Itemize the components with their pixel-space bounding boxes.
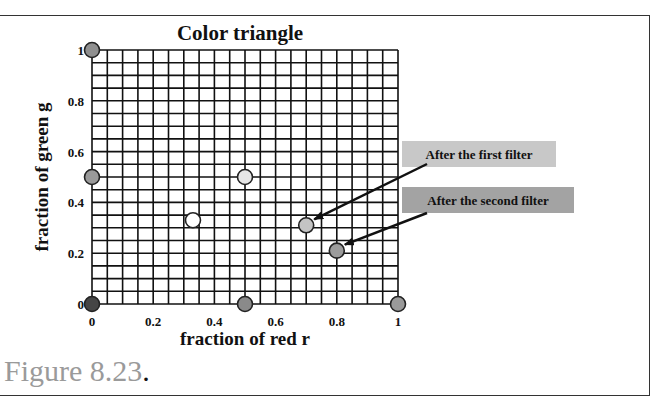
y-axis-label: fraction of green g xyxy=(31,102,52,251)
data-point-red-primary xyxy=(391,297,406,312)
x-tick-labels: 00.20.40.60.81 xyxy=(89,314,402,329)
data-point-white-point xyxy=(185,213,200,228)
y-tick-label: 0.6 xyxy=(68,145,85,160)
data-point-red-green-mix xyxy=(238,170,253,185)
x-tick-label: 0 xyxy=(89,314,96,329)
x-tick-label: 0.8 xyxy=(329,314,346,329)
y-tick-label: 0.2 xyxy=(68,246,84,261)
data-point-blue-primary xyxy=(85,297,100,312)
caption-period: . xyxy=(142,354,150,387)
y-tick-label: 0.8 xyxy=(68,94,85,109)
chart-title: Color triangle xyxy=(177,21,303,45)
x-axis-label: fraction of red r xyxy=(180,328,311,349)
y-tick-label: 0.4 xyxy=(68,195,85,210)
x-tick-label: 0.6 xyxy=(267,314,284,329)
color-triangle-chart: Color triangle 00.20.40.60.81 00.20.40.6… xyxy=(0,0,656,403)
y-tick-labels: 00.20.40.60.81 xyxy=(68,43,85,312)
y-tick-label: 1 xyxy=(78,43,85,58)
data-point-red-blue-mix xyxy=(238,297,253,312)
figure-caption: Figure 8.23. xyxy=(4,354,150,388)
data-point-green-primary xyxy=(85,43,100,58)
annotations: After the first filterAfter the second f… xyxy=(314,141,574,245)
y-tick-label: 0 xyxy=(78,297,85,312)
data-point-green-red-mix xyxy=(85,170,100,185)
data-point-after-first-filter xyxy=(299,218,314,233)
annotation-label: After the first filter xyxy=(426,147,533,162)
caption-text: Figure 8.23 xyxy=(4,354,142,387)
x-tick-label: 0.2 xyxy=(145,314,161,329)
annotation-label: After the second filter xyxy=(427,193,549,208)
data-point-after-second-filter xyxy=(329,243,344,258)
x-tick-label: 1 xyxy=(395,314,402,329)
x-tick-label: 0.4 xyxy=(206,314,223,329)
